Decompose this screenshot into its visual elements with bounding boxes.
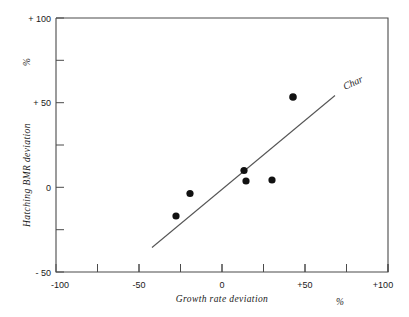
x-axis-ticks xyxy=(56,264,388,272)
y-tick-label-minus50: - 50 xyxy=(35,268,51,278)
x-tick-label-minus100: -100 xyxy=(51,280,69,290)
chart-figure: + 100 + 50 0 - 50 -100 -50 0 +50 xyxy=(0,0,409,317)
data-point xyxy=(240,167,247,174)
y-tick-label-50: + 50 xyxy=(33,98,51,108)
x-tick-label-minus50: -50 xyxy=(132,280,145,290)
data-point xyxy=(242,177,249,184)
scatter-plot: + 100 + 50 0 - 50 -100 -50 0 +50 xyxy=(0,0,409,317)
x-tick-label-0: 0 xyxy=(219,280,224,290)
y-axis-unit-label: % xyxy=(22,58,32,66)
data-point xyxy=(186,190,193,197)
data-points-group xyxy=(172,93,296,219)
axis-frame-path xyxy=(56,18,388,272)
y-tick-label-100: + 100 xyxy=(28,14,51,24)
y-axis-title: Hatching BMR deviation xyxy=(22,123,32,228)
axes-frame xyxy=(56,18,388,272)
data-point xyxy=(172,212,179,219)
data-point xyxy=(289,93,297,101)
y-axis-ticks xyxy=(56,18,64,272)
x-tick-label-50: +50 xyxy=(297,280,312,290)
data-point xyxy=(268,176,275,183)
series-annotation-char: Char xyxy=(341,73,364,92)
x-axis-title: Growth rate deviation xyxy=(176,294,269,304)
x-tick-label-100: +100 xyxy=(373,280,393,290)
y-tick-label-0: 0 xyxy=(46,183,51,193)
x-axis-tick-labels: -100 -50 0 +50 +100 xyxy=(51,280,393,290)
x-axis-unit-label: % xyxy=(336,297,344,307)
